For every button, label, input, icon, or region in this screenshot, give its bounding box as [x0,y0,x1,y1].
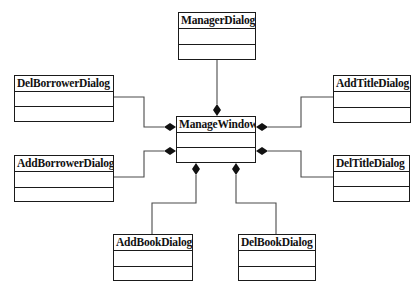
link-line [268,97,333,127]
composition-diamond-icon [192,163,200,175]
class-name: DelBookDialog [239,235,315,251]
class-name: AddBorrowerDialog [15,156,113,172]
class-box-add-book-dialog: AddBookDialog [113,234,193,281]
composition-diamond-icon [164,147,176,155]
composition-diamond-icon [164,123,176,131]
composition-diamond-icon [213,104,221,116]
class-name: ManageWindow [177,117,255,133]
composition-link [152,163,200,234]
class-name: ManagerDialog [179,13,255,29]
composition-link [256,97,333,131]
class-box-del-borrower-dialog: DelBorrowerDialog [14,75,114,122]
composition-diamond-icon [256,147,268,155]
class-attributes-compartment [15,92,113,107]
composition-link [114,147,176,177]
composition-diamond-icon [232,163,240,175]
class-attributes-compartment [179,29,255,45]
class-name: AddBookDialog [114,235,192,251]
class-attributes-compartment [334,172,409,187]
class-attributes-compartment [177,133,255,148]
class-attributes-compartment [15,172,113,188]
class-box-del-title-dialog: DelTitleDialog [333,155,410,202]
uml-class-diagram: ManagerDialog ManageWindow DelBorrowerDi… [0,0,419,298]
class-box-add-borrower-dialog: AddBorrowerDialog [14,155,114,202]
class-box-del-book-dialog: DelBookDialog [238,234,316,281]
class-attributes-compartment [239,251,315,267]
composition-link [114,97,176,131]
link-line [268,151,333,177]
composition-link [232,163,276,234]
link-line [152,175,196,234]
link-line [114,151,164,177]
class-name: DelTitleDialog [334,156,409,172]
link-line [236,175,276,234]
composition-link [256,147,333,177]
class-attributes-compartment [114,251,192,267]
class-name: AddTitleDialog [334,76,410,92]
link-line [114,97,164,127]
composition-diamond-icon [256,123,268,131]
class-box-manage-window: ManageWindow [176,116,256,163]
class-name: DelBorrowerDialog [15,76,113,92]
class-attributes-compartment [334,92,410,108]
class-box-add-title-dialog: AddTitleDialog [333,75,411,123]
composition-link [213,60,221,116]
class-box-manager-dialog: ManagerDialog [178,12,256,60]
